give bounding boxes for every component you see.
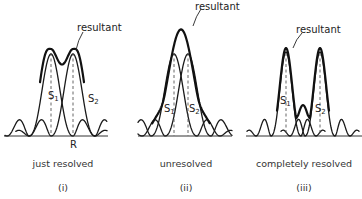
resolution-diagram: resultant S1 S2 R just resolved (i) resu… [0, 0, 362, 199]
source-2-label: S2 [315, 103, 326, 116]
source-2-label: S2 [88, 93, 99, 106]
panel-number: (ii) [180, 182, 193, 193]
panel-number: (i) [58, 182, 68, 193]
resultant-leader-line [76, 32, 83, 50]
panel-caption: unresolved [160, 158, 212, 169]
source-1-label: S1 [48, 90, 59, 103]
r-label: R [70, 139, 77, 150]
source-1-label: S1 [280, 95, 291, 108]
panel-caption: completely resolved [256, 158, 352, 169]
panel-caption: just resolved [32, 158, 94, 169]
resultant-label: resultant [77, 22, 122, 33]
resultant-label: resultant [195, 1, 240, 12]
resultant-leader-line [293, 33, 302, 48]
panel-number: (iii) [296, 182, 311, 193]
panel-just-resolved: resultant S1 S2 R just resolved (i) [4, 22, 122, 193]
source-1-label: S1 [164, 103, 175, 116]
resultant-label: resultant [296, 24, 341, 35]
panel-unresolved: resultant S1 S2 unresolved (ii) [138, 1, 240, 193]
panel-completely-resolved: resultant S1 S2 completely resolved (iii… [246, 24, 362, 193]
source-2-label: S2 [189, 103, 200, 116]
